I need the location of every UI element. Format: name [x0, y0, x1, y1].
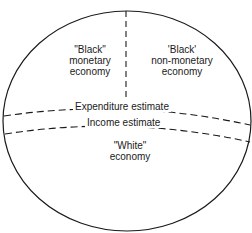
- region-label-black-monetary: "Black" monetary economy: [60, 44, 120, 77]
- label-line: "White": [100, 140, 160, 151]
- economy-diagram: "Black" monetary economy 'Black' non-mon…: [0, 0, 252, 233]
- label-line: monetary: [60, 55, 120, 66]
- label-line: economy: [60, 66, 120, 77]
- region-label-black-non-monetary: 'Black' non-monetary economy: [142, 44, 222, 77]
- label-line: "Black": [60, 44, 120, 55]
- label-line: economy: [142, 66, 222, 77]
- region-label-white: "White" economy: [100, 140, 160, 162]
- expenditure-estimate-label: Expenditure estimate: [73, 101, 171, 112]
- label-line: 'Black': [142, 44, 222, 55]
- income-estimate-label: Income estimate: [85, 117, 162, 128]
- label-line: non-monetary: [142, 55, 222, 66]
- label-line: economy: [100, 151, 160, 162]
